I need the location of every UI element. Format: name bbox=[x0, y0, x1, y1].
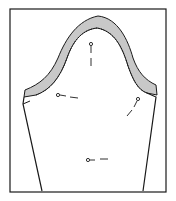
sleeve-pattern-diagram bbox=[0, 0, 176, 201]
pin-top bbox=[89, 42, 92, 66]
diagram-frame bbox=[10, 9, 166, 192]
sleeve-outline bbox=[23, 93, 156, 191]
pin-left bbox=[56, 93, 78, 98]
underarm-notch bbox=[23, 101, 30, 104]
pin-bottom bbox=[86, 158, 108, 161]
pin-right bbox=[127, 97, 140, 116]
